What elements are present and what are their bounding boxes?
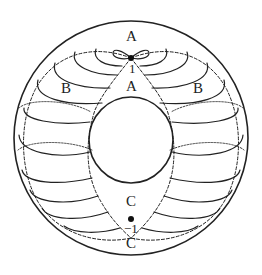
label-bottom-point: −1 [124,221,138,236]
label-bottom-inner: C [126,193,136,209]
dotted-back-arcs [18,102,244,150]
label-left: B [61,80,71,96]
label-top-outer: A [126,28,137,44]
label-top-point: 1 [129,61,136,76]
label-right: B [193,80,203,96]
label-bottom-outer: C [126,235,136,251]
inner-circle [89,97,173,183]
torus-diagram: A 1 A B B C −1 C [0,0,262,275]
label-top-inner: A [126,78,137,94]
